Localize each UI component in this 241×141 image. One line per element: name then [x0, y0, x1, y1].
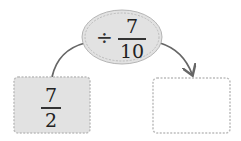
- input-fraction: 7 2: [40, 86, 62, 130]
- connector-left: [52, 43, 85, 77]
- operator-numerator: 7: [126, 17, 138, 36]
- input-numerator: 7: [45, 86, 57, 105]
- output-answer-area[interactable]: [155, 80, 228, 131]
- operator-fraction: 7 10: [118, 17, 146, 61]
- input-denominator: 2: [45, 111, 57, 130]
- operator-denominator: 10: [120, 42, 144, 61]
- connector-right-arrow: [160, 43, 192, 74]
- divide-icon: ÷: [96, 25, 113, 49]
